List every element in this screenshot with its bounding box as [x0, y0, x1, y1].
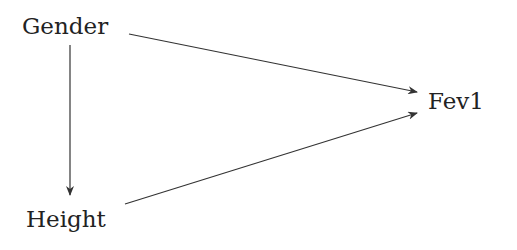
node-gender: Gender — [22, 15, 108, 38]
dag-diagram: Gender Height Fev1 — [0, 0, 517, 250]
edge-height-fev1 — [125, 113, 417, 204]
node-fev1: Fev1 — [428, 90, 484, 113]
node-height: Height — [26, 208, 106, 231]
edge-gender-fev1 — [129, 34, 417, 92]
